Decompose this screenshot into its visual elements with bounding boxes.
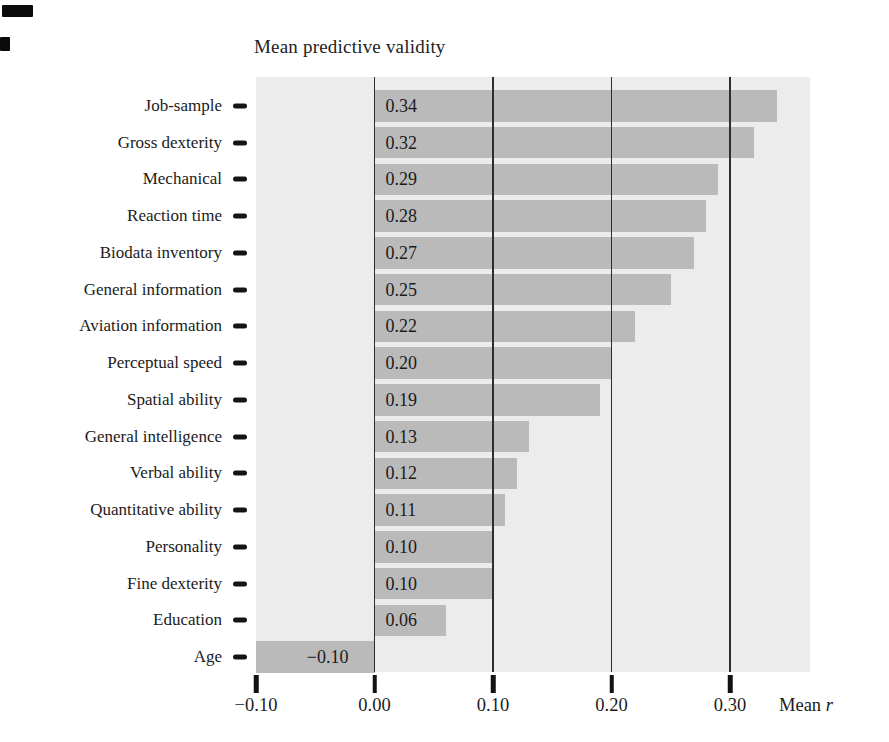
bar-value-label: 0.22 (386, 316, 418, 337)
bar-value-label: 0.29 (386, 169, 418, 190)
x-axis-caption-text: Mean (779, 695, 821, 715)
category-label: Age (194, 647, 222, 667)
gridline (611, 77, 613, 672)
x-tick (491, 675, 496, 693)
y-axis-tick-dash (233, 471, 247, 476)
category-label: Quantitative ability (90, 500, 222, 520)
bar (375, 200, 707, 232)
bar (375, 274, 671, 306)
y-axis-tick-dash (233, 361, 247, 366)
y-axis-tick-dash (233, 177, 247, 182)
category-label: Education (153, 610, 222, 630)
category-label: Spatial ability (127, 390, 222, 410)
y-axis-tick-dash (233, 618, 247, 623)
bar-value-label: 0.12 (386, 463, 418, 484)
bar-value-label: 0.13 (386, 426, 418, 447)
y-axis-tick-dash (233, 324, 247, 329)
x-tick-label: 0.00 (358, 695, 390, 716)
x-axis-caption-variable: r (826, 695, 833, 715)
y-axis-tick-dash (233, 397, 247, 402)
y-axis-tick-dash (233, 214, 247, 219)
category-label: Mechanical (143, 169, 222, 189)
gridline (492, 77, 494, 672)
chart-title: Mean predictive validity (254, 36, 446, 58)
bar-value-label: 0.10 (386, 536, 418, 557)
bar-value-label: 0.34 (386, 95, 418, 116)
x-tick-label: 0.30 (714, 695, 746, 716)
x-tick-label: 0.10 (477, 695, 509, 716)
category-label: Job-sample (145, 96, 222, 116)
category-label: Gross dexterity (118, 133, 222, 153)
gridline (374, 77, 376, 672)
category-label: Verbal ability (130, 463, 222, 483)
category-label: General intelligence (85, 427, 222, 447)
bar-value-label: 0.28 (386, 206, 418, 227)
bar-value-label: −0.10 (307, 647, 349, 668)
y-axis-tick-dash (233, 103, 247, 108)
bar (375, 164, 719, 196)
y-axis-tick-dash (233, 434, 247, 439)
bar-value-label: 0.27 (386, 242, 418, 263)
bar-value-label: 0.10 (386, 573, 418, 594)
x-tick (254, 675, 259, 693)
y-axis-tick-dash (233, 140, 247, 145)
y-axis-tick-dash (233, 287, 247, 292)
bar-value-label: 0.32 (386, 132, 418, 153)
gridline (729, 77, 731, 672)
bar-value-label: 0.06 (386, 610, 418, 631)
figure-page: Mean predictive validity Job-sample0.34G… (0, 0, 889, 742)
x-tick (609, 675, 614, 693)
y-axis-tick-dash (233, 655, 247, 660)
y-axis-tick-dash (233, 544, 247, 549)
x-tick (372, 675, 377, 693)
bar-value-label: 0.11 (386, 500, 417, 521)
bar-value-label: 0.25 (386, 279, 418, 300)
x-tick-label: 0.20 (595, 695, 627, 716)
category-label: Aviation information (79, 316, 222, 336)
category-label: Fine dexterity (127, 574, 222, 594)
y-axis-tick-dash (233, 581, 247, 586)
bar-value-label: 0.19 (386, 389, 418, 410)
category-label: Perceptual speed (107, 353, 222, 373)
x-tick (728, 675, 733, 693)
bar (375, 237, 695, 269)
category-label: Biodata inventory (100, 243, 222, 263)
scan-artifact-top-left (2, 5, 33, 17)
bar (375, 127, 754, 159)
category-label: Reaction time (127, 206, 222, 226)
category-label: General information (84, 280, 222, 300)
bar (375, 90, 778, 122)
x-tick-label: −0.10 (235, 695, 278, 716)
scan-artifact-left-edge (0, 37, 10, 51)
y-axis-tick-dash (233, 508, 247, 513)
bar-value-label: 0.20 (386, 353, 418, 374)
x-axis-caption: Mean r (779, 695, 833, 716)
y-axis-tick-dash (233, 250, 247, 255)
category-label: Personality (146, 537, 223, 557)
